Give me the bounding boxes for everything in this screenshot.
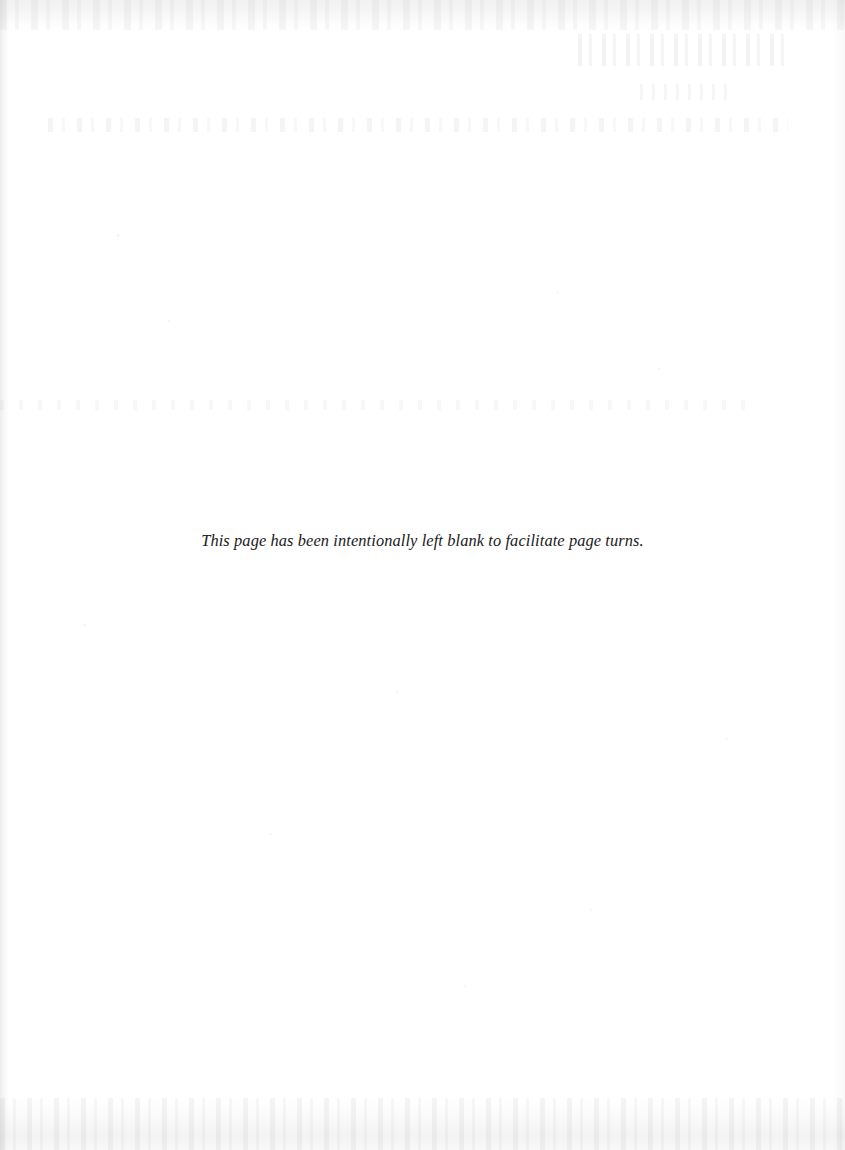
left-scan-edge-artifact bbox=[0, 0, 9, 1150]
ghost-text-upper-right-secondary-artifact bbox=[640, 84, 732, 100]
blank-page-notice: This page has been intentionally left bl… bbox=[0, 531, 845, 551]
top-smudge-band-artifact bbox=[0, 0, 845, 30]
speck-field-artifact bbox=[0, 150, 845, 1100]
ghost-text-line-middle-artifact bbox=[0, 400, 760, 410]
right-scan-edge-artifact bbox=[833, 0, 845, 1150]
ghost-text-upper-right-artifact bbox=[578, 34, 788, 66]
scanned-page: This page has been intentionally left bl… bbox=[0, 0, 845, 1150]
bottom-smudge-band-artifact bbox=[0, 1098, 845, 1150]
ghost-text-line-upper-artifact bbox=[48, 118, 788, 132]
